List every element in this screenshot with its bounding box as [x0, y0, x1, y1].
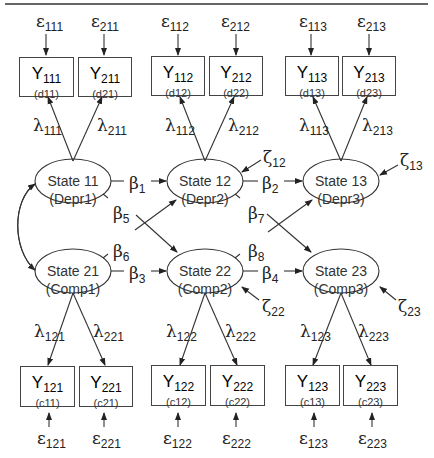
latent-state-22: State 22(Comp2)	[167, 262, 243, 298]
loading-label-l111: λ111	[33, 117, 62, 137]
error-label-e113: ε113	[299, 13, 327, 33]
beta-label-2: β2	[262, 175, 279, 195]
loading-label-l223: λ223	[358, 323, 389, 343]
indicator-box-y223: Y223 (c23)	[343, 365, 398, 406]
beta-label-1: β1	[129, 175, 146, 195]
indicator-box-y112: Y112 (d12)	[151, 56, 205, 96]
indicator-box-y213: Y213 (d23)	[342, 56, 396, 96]
loading-label-l213: λ213	[362, 117, 393, 137]
loading-label-l122: λ122	[166, 323, 197, 343]
indicator-box-y122: Y122 (c12)	[151, 365, 206, 406]
indicator-box-y113: Y113 (d13)	[285, 56, 339, 96]
error-label-e121: ε121	[37, 430, 66, 450]
beta-label-7: β7	[248, 205, 265, 225]
error-label-e213: ε213	[357, 13, 386, 33]
latent-state-11: State 11(Depr1)	[35, 172, 111, 208]
indicator-box-y222: Y222 (c22)	[210, 365, 265, 406]
error-label-e122: ε122	[163, 430, 192, 450]
error-label-e123: ε123	[299, 430, 328, 450]
error-label-e222: ε222	[222, 430, 251, 450]
error-label-e112: ε112	[161, 13, 189, 33]
beta-label-3: β3	[129, 265, 146, 285]
disturbance-label-z23: ζ23	[398, 298, 421, 318]
beta-label-6: β6	[113, 243, 130, 263]
loading-label-l221: λ221	[93, 323, 124, 343]
indicator-box-y221: Y221 (c21)	[79, 366, 133, 407]
loading-label-l121: λ121	[34, 323, 65, 343]
error-label-e111: ε111	[36, 13, 63, 33]
error-label-e212: ε212	[221, 13, 250, 33]
latent-state-12: State 12(Depr2)	[167, 172, 243, 208]
loading-label-l112: λ112	[165, 117, 195, 137]
latent-state-21: State 21(Comp1)	[35, 262, 111, 298]
indicator-box-y121: Y121 (c11)	[20, 366, 75, 407]
indicator-box-y211: Y211 (d21)	[78, 57, 132, 97]
loading-label-l222: λ222	[225, 323, 256, 343]
disturbance-label-z22: ζ22	[262, 298, 285, 318]
loading-label-l211: λ211	[97, 117, 127, 137]
loading-label-l123: λ123	[300, 323, 331, 343]
indicator-box-y123: Y123 (c13)	[285, 365, 340, 406]
latent-state-13: State 13(Depr3)	[303, 172, 379, 208]
beta-label-5: β5	[113, 205, 130, 225]
indicator-box-y111: Y111 (d11)	[19, 57, 74, 97]
beta-label-8: β8	[248, 243, 265, 263]
loading-label-l212: λ212	[228, 117, 259, 137]
error-label-e221: ε221	[92, 430, 121, 450]
error-label-e223: ε223	[358, 430, 387, 450]
disturbance-label-z12: ζ12	[263, 149, 286, 169]
disturbance-label-z13: ζ13	[400, 152, 423, 172]
error-label-e211: ε211	[91, 13, 119, 33]
beta-label-4: β4	[262, 265, 279, 285]
indicator-box-y212: Y212 (d22)	[209, 56, 263, 96]
latent-state-23: State 23(Comp3)	[303, 262, 379, 298]
loading-label-l113: λ113	[299, 117, 329, 137]
